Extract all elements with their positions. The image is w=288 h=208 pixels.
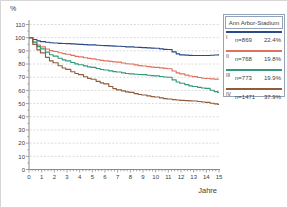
series-color-line: [226, 88, 282, 90]
y-tick-label-40: 40: [18, 114, 25, 120]
series-color-line: [226, 31, 282, 33]
x-tick-label-7: 7: [116, 174, 120, 180]
x-axis-title: Jahre: [198, 186, 217, 195]
percentage: 19.9%: [264, 75, 281, 81]
series-color-line: [226, 50, 282, 52]
legend: Ann Arbor-Stadium I n=869 22.4% II n=768…: [223, 14, 285, 97]
stage-roman-numeral: III: [226, 73, 230, 78]
patient-count: n=869: [235, 37, 252, 43]
x-tick-label-9: 9: [141, 174, 145, 180]
survival-curve-stage-I: [29, 38, 219, 56]
y-tick-label-60: 60: [18, 88, 25, 94]
legend-title: Ann Arbor-Stadium: [225, 16, 283, 29]
x-tick-label-14: 14: [203, 174, 210, 180]
x-tick-label-4: 4: [78, 174, 82, 180]
y-tick-label-80: 80: [18, 61, 25, 67]
y-tick-label-30: 30: [18, 127, 25, 133]
x-tick-label-6: 6: [103, 174, 107, 180]
patient-count: n=1471: [235, 94, 255, 100]
x-tick-label-12: 12: [178, 174, 185, 180]
y-tick-label-50: 50: [18, 101, 25, 107]
patient-count: n=773: [235, 75, 252, 81]
x-tick-label-5: 5: [91, 174, 95, 180]
y-tick-label-20: 20: [18, 140, 25, 146]
x-tick-label-15: 15: [216, 174, 223, 180]
patient-count: n=768: [235, 56, 252, 62]
percentage: 19.8%: [264, 56, 281, 62]
legend-item-stage-4: IV n=1471 37.9%: [224, 88, 284, 105]
x-tick-label-3: 3: [65, 174, 69, 180]
y-tick-label-0: 0: [22, 167, 26, 173]
y-tick-label-70: 70: [18, 74, 25, 80]
survival-chart-figure: % 01020304050607080901001100123456789101…: [0, 0, 288, 208]
legend-item-stage-1: I n=869 22.4%: [224, 31, 284, 48]
x-tick-label-11: 11: [165, 174, 172, 180]
percentage: 37.9%: [264, 94, 281, 100]
x-tick-label-0: 0: [27, 174, 31, 180]
y-tick-label-90: 90: [18, 48, 25, 54]
y-tick-label-110: 110: [15, 22, 25, 28]
x-tick-label-8: 8: [129, 174, 133, 180]
x-tick-label-10: 10: [152, 174, 159, 180]
x-tick-label-13: 13: [190, 174, 197, 180]
y-tick-label-100: 100: [15, 35, 26, 41]
y-tick-label-10: 10: [18, 154, 25, 160]
survival-curve-stage-IV: [29, 38, 219, 105]
x-tick-label-1: 1: [40, 174, 44, 180]
series-color-line: [226, 69, 282, 71]
survival-curve-stage-III: [29, 38, 219, 93]
stage-roman-numeral: I: [226, 35, 227, 40]
x-tick-label-2: 2: [53, 174, 57, 180]
legend-item-stage-3: III n=773 19.9%: [224, 69, 284, 86]
percentage: 22.4%: [264, 37, 281, 43]
stage-roman-numeral: IV: [226, 92, 231, 97]
stage-roman-numeral: II: [226, 54, 229, 59]
legend-item-stage-2: II n=768 19.8%: [224, 50, 284, 67]
